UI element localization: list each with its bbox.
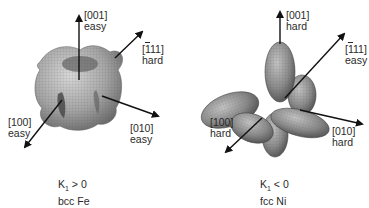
axis-type: hard: [332, 137, 355, 148]
anisotropy-constant: K1 < 0: [260, 178, 289, 195]
anisotropy-constant: K1 > 0: [58, 178, 90, 195]
diagram-canvas: [0, 0, 369, 208]
ni-axis-001-label: [001] hard: [286, 10, 309, 32]
axis-type: easy: [84, 21, 107, 32]
k-symbol: K: [58, 178, 65, 190]
material-name: fcc Ni: [260, 195, 289, 207]
ni-axis-100-label: [100] hard: [210, 117, 233, 139]
axis-type: hard: [210, 128, 233, 139]
k-relation: > 0: [69, 178, 87, 190]
k-symbol: K: [260, 178, 267, 190]
fe-caption: K1 > 0 bcc Fe: [58, 178, 90, 207]
fe-axis-010-label: [010] easy: [130, 123, 153, 145]
ni-axis-111-label: [111] easy: [345, 44, 367, 66]
k-relation: < 0: [271, 178, 289, 190]
axis-type: easy: [8, 128, 31, 139]
ni-axis-010-label: [010] hard: [332, 126, 355, 148]
axis-type: easy: [130, 134, 153, 145]
fe-axis-001-label: [001] easy: [84, 10, 107, 32]
ni-caption: K1 < 0 fcc Ni: [260, 178, 289, 207]
ni-anisotropy-surface: [196, 42, 332, 157]
fe-axis-100-label: [100] easy: [8, 117, 31, 139]
material-name: bcc Fe: [58, 195, 90, 207]
fe-axis-111-label: [111] hard: [142, 44, 164, 66]
axis-type: easy: [345, 55, 367, 66]
axis-type: hard: [286, 21, 309, 32]
axis-type: hard: [142, 55, 164, 66]
